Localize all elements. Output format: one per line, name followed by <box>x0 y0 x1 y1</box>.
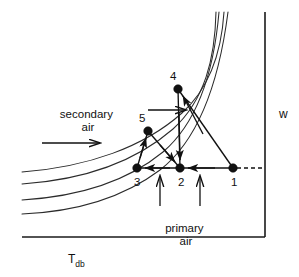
secondary-air-line-1: secondary <box>60 108 113 120</box>
annotation-arrow-group <box>42 110 200 206</box>
state-point-label-2: 2 <box>178 176 184 188</box>
secondary-air-label: secondary air <box>60 108 116 133</box>
psychrometric-chart-figure: 12345 Tdb w secondary air primary air <box>0 0 299 277</box>
state-point-label-4: 4 <box>170 70 177 82</box>
primary-air-line-1: primary <box>165 222 204 234</box>
secondary-air-line-2: air <box>82 121 95 133</box>
state-point-2 <box>176 164 185 173</box>
x-axis-label-subscript: db <box>75 259 85 269</box>
primary-air-line-2: air <box>180 235 193 247</box>
axes-group <box>22 12 265 237</box>
state-point-1 <box>229 164 238 173</box>
rh-curve-1 <box>22 12 228 214</box>
state-point-label-5: 5 <box>139 112 145 124</box>
rh-curve-3 <box>22 12 216 184</box>
chart-canvas: 12345 Tdb w secondary air primary air <box>0 0 299 277</box>
rh-curve-4 <box>22 12 224 172</box>
state-point-label-3: 3 <box>134 176 140 188</box>
state-point-4 <box>174 85 183 94</box>
relative-humidity-curves <box>22 12 228 214</box>
y-axis-label: w <box>278 107 288 121</box>
primary-air-label: primary air <box>165 222 207 247</box>
state-point-group: 12345 <box>133 70 238 188</box>
state-point-label-1: 1 <box>231 176 237 188</box>
x-axis-label: Tdb <box>68 252 85 269</box>
state-point-3 <box>133 164 142 173</box>
state-point-5 <box>144 127 153 136</box>
